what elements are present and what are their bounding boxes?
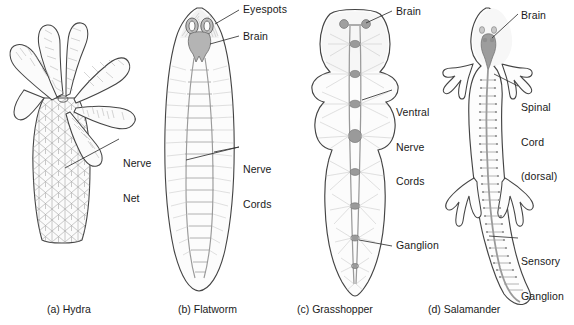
label-brain-flatworm: Brain (243, 31, 268, 43)
label-eyespots: Eyespots (243, 4, 287, 16)
label-sensory-ganglion: Sensory Ganglion (521, 233, 564, 325)
flatworm-illustration (165, 8, 239, 291)
label-sensory-line1: Sensory (521, 256, 564, 268)
label-ventral-line1: Ventral (396, 107, 429, 119)
grasshopper-illustration (312, 10, 398, 297)
leader-eyespots (215, 10, 239, 24)
nervous-system-comparison-figure: Nerve Net Eyespots Brain Nerve Cords Bra… (0, 0, 574, 325)
label-sensory-line2: Ganglion (521, 291, 564, 303)
label-nerve-cords: Nerve Cords (243, 141, 272, 233)
label-ventral-line2: Nerve (396, 142, 429, 154)
caption-grasshopper: (c) Grasshopper (297, 303, 373, 315)
caption-flatworm: (b) Flatworm (178, 303, 237, 315)
label-nerve-net: Nerve Net (123, 135, 152, 227)
hydra-illustration (10, 23, 135, 255)
salamander-illustration (443, 8, 533, 305)
label-spinal-line1: Spinal (521, 102, 557, 114)
label-brain-grasshopper: Brain (396, 6, 421, 18)
label-spinal-line2: Cord (521, 137, 557, 149)
caption-hydra: (a) Hydra (47, 303, 91, 315)
label-nerve-cords-line2: Cords (243, 199, 272, 211)
label-spinal-line3: (dorsal) (521, 171, 557, 183)
caption-salamander: (d) Salamander (428, 303, 500, 315)
label-brain-salamander: Brain (521, 10, 546, 22)
label-nerve-cords-line1: Nerve (243, 164, 272, 176)
label-ventral-line3: Cords (396, 176, 429, 188)
label-spinal-cord: Spinal Cord (dorsal) (521, 79, 557, 206)
figure-artwork (0, 0, 574, 325)
label-ventral-nerve-cords: Ventral Nerve Cords (396, 84, 429, 211)
label-nerve-net-line2: Net (123, 193, 152, 205)
label-nerve-net-line1: Nerve (123, 158, 152, 170)
label-ganglion: Ganglion (396, 240, 439, 252)
